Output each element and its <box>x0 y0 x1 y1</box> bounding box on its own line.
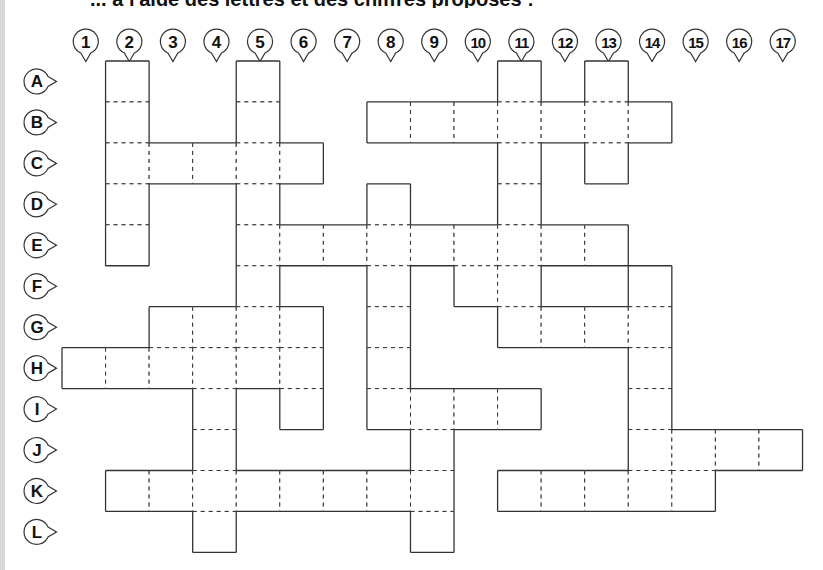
cell-box[interactable] <box>367 102 411 143</box>
grid-cell-F10[interactable] <box>454 266 498 307</box>
cell-box[interactable] <box>193 143 237 184</box>
grid-cell-H8[interactable] <box>367 348 411 389</box>
grid-cell-E10[interactable] <box>454 225 498 266</box>
grid-cell-G4[interactable] <box>193 307 237 348</box>
cell-box[interactable] <box>149 307 193 348</box>
grid-cell-E7[interactable] <box>323 225 367 266</box>
grid-cell-G5[interactable] <box>236 307 280 348</box>
grid-cell-D8[interactable] <box>367 184 411 225</box>
cell-box[interactable] <box>585 143 629 184</box>
cell-box[interactable] <box>410 471 454 512</box>
grid-cell-C3[interactable] <box>149 143 193 184</box>
grid-cell-F11[interactable] <box>498 266 542 307</box>
grid-cell-J4[interactable] <box>193 430 237 471</box>
cell-box[interactable] <box>149 348 193 389</box>
cell-box[interactable] <box>672 430 716 471</box>
cell-box[interactable] <box>410 102 454 143</box>
cell-box[interactable] <box>628 102 672 143</box>
cell-box[interactable] <box>585 61 629 102</box>
cell-box[interactable] <box>106 225 150 266</box>
cell-box[interactable] <box>498 471 542 512</box>
cell-box[interactable] <box>585 307 629 348</box>
cell-box[interactable] <box>193 307 237 348</box>
cell-box[interactable] <box>280 307 324 348</box>
grid-cell-K13[interactable] <box>585 471 629 512</box>
cell-box[interactable] <box>236 143 280 184</box>
grid-cell-J16[interactable] <box>715 430 759 471</box>
cell-box[interactable] <box>498 225 542 266</box>
grid-cell-F5[interactable] <box>236 266 280 307</box>
cell-box[interactable] <box>585 225 629 266</box>
cell-box[interactable] <box>323 471 367 512</box>
cell-box[interactable] <box>280 143 324 184</box>
grid-cell-F8[interactable] <box>367 266 411 307</box>
grid-cell-K2[interactable] <box>106 471 150 512</box>
grid-cell-D11[interactable] <box>498 184 542 225</box>
cell-box[interactable] <box>628 266 672 307</box>
grid-cell-K11[interactable] <box>498 471 542 512</box>
grid-cell-E13[interactable] <box>585 225 629 266</box>
grid-cell-B12[interactable] <box>541 102 585 143</box>
grid-cell-D5[interactable] <box>236 184 280 225</box>
grid-cell-H2[interactable] <box>106 348 150 389</box>
grid-cell-F14[interactable] <box>628 266 672 307</box>
cell-box[interactable] <box>454 266 498 307</box>
grid-cell-K12[interactable] <box>541 471 585 512</box>
cell-box[interactable] <box>106 348 150 389</box>
grid-cell-H3[interactable] <box>149 348 193 389</box>
grid-cell-G6[interactable] <box>280 307 324 348</box>
cell-box[interactable] <box>498 143 542 184</box>
grid-cell-A5[interactable] <box>236 61 280 102</box>
cell-box[interactable] <box>236 225 280 266</box>
grid-cell-H1[interactable] <box>62 348 106 389</box>
cell-box[interactable] <box>759 430 803 471</box>
grid-cell-L9[interactable] <box>410 511 454 552</box>
grid-cell-C5[interactable] <box>236 143 280 184</box>
grid-cell-B8[interactable] <box>367 102 411 143</box>
grid-cell-H6[interactable] <box>280 348 324 389</box>
cell-box[interactable] <box>280 225 324 266</box>
grid-cell-G8[interactable] <box>367 307 411 348</box>
cell-box[interactable] <box>367 389 411 430</box>
grid-cell-E5[interactable] <box>236 225 280 266</box>
cell-box[interactable] <box>541 102 585 143</box>
cell-box[interactable] <box>106 61 150 102</box>
grid-cell-C11[interactable] <box>498 143 542 184</box>
cell-box[interactable] <box>585 102 629 143</box>
cell-box[interactable] <box>367 266 411 307</box>
grid-cell-A2[interactable] <box>106 61 150 102</box>
cell-box[interactable] <box>367 225 411 266</box>
grid-cell-B2[interactable] <box>106 102 150 143</box>
cell-box[interactable] <box>454 389 498 430</box>
grid-cell-B5[interactable] <box>236 102 280 143</box>
grid-cell-I11[interactable] <box>498 389 542 430</box>
cell-box[interactable] <box>498 184 542 225</box>
grid-cell-I10[interactable] <box>454 389 498 430</box>
grid-cell-J9[interactable] <box>410 430 454 471</box>
cell-box[interactable] <box>280 348 324 389</box>
grid-cell-B14[interactable] <box>628 102 672 143</box>
grid-cell-G11[interactable] <box>498 307 542 348</box>
cell-box[interactable] <box>193 511 237 552</box>
cell-box[interactable] <box>149 471 193 512</box>
cell-box[interactable] <box>498 266 542 307</box>
cell-box[interactable] <box>193 471 237 512</box>
grid-cell-A11[interactable] <box>498 61 542 102</box>
grid-cell-K6[interactable] <box>280 471 324 512</box>
cell-box[interactable] <box>236 266 280 307</box>
cell-box[interactable] <box>410 511 454 552</box>
grid-cell-I6[interactable] <box>280 389 324 430</box>
grid-cell-E12[interactable] <box>541 225 585 266</box>
cell-box[interactable] <box>541 225 585 266</box>
grid-cell-E11[interactable] <box>498 225 542 266</box>
cell-box[interactable] <box>541 307 585 348</box>
cell-box[interactable] <box>628 307 672 348</box>
cell-box[interactable] <box>323 225 367 266</box>
cell-box[interactable] <box>106 143 150 184</box>
grid-cell-H14[interactable] <box>628 348 672 389</box>
cell-box[interactable] <box>498 389 542 430</box>
cell-box[interactable] <box>628 348 672 389</box>
cell-box[interactable] <box>498 102 542 143</box>
grid-cell-J15[interactable] <box>672 430 716 471</box>
grid-cell-D2[interactable] <box>106 184 150 225</box>
